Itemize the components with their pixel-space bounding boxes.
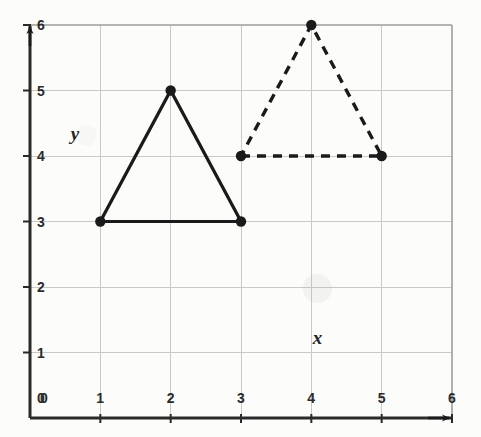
figure-canvas: 01234560123456xy — [0, 0, 481, 437]
data-point-marker — [95, 216, 105, 226]
y-tick-label-1: 1 — [37, 346, 45, 360]
x-tick-label-0: 0 — [40, 391, 48, 405]
y-tick-label-4: 4 — [37, 149, 45, 163]
x-axis-name: x — [313, 328, 323, 347]
data-point-marker — [306, 20, 316, 30]
data-point-marker — [165, 85, 175, 95]
coordinate-plot — [0, 0, 481, 437]
data-point-marker — [236, 216, 246, 226]
x-tick-label-4: 4 — [307, 391, 315, 405]
y-tick-label-2: 2 — [37, 280, 45, 294]
x-tick-label-6: 6 — [448, 391, 456, 405]
y-axis-name: y — [71, 124, 79, 143]
x-tick-label-5: 5 — [378, 391, 386, 405]
x-tick-label-2: 2 — [167, 391, 175, 405]
data-point-marker — [236, 151, 246, 161]
y-tick-label-5: 5 — [37, 84, 45, 98]
x-tick-label-3: 3 — [237, 391, 245, 405]
y-tick-label-6: 6 — [37, 18, 45, 32]
x-tick-label-1: 1 — [96, 391, 104, 405]
data-point-marker — [376, 151, 386, 161]
y-tick-label-3: 3 — [37, 215, 45, 229]
